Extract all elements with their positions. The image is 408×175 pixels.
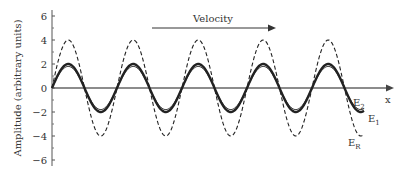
svg-text:0: 0 bbox=[41, 83, 47, 94]
label-e1: E1 bbox=[368, 113, 380, 127]
svg-text:−2: −2 bbox=[32, 107, 47, 118]
x-axis-label: x bbox=[385, 94, 391, 105]
svg-text:−6: −6 bbox=[32, 155, 47, 166]
label-er: ER bbox=[348, 137, 361, 151]
y-axis-label: Amplitude (arbitrary units) bbox=[12, 19, 23, 157]
svg-text:2: 2 bbox=[41, 59, 47, 70]
wave-chart: 6420−2−4−6 x Amplitude (arbitrary units)… bbox=[0, 0, 408, 175]
svg-text:4: 4 bbox=[41, 35, 47, 46]
svg-text:6: 6 bbox=[41, 11, 47, 22]
velocity-label: Velocity bbox=[192, 13, 233, 24]
velocity-arrow-icon bbox=[268, 25, 276, 32]
svg-text:−4: −4 bbox=[32, 131, 47, 142]
x-axis-arrow-icon bbox=[386, 85, 394, 92]
